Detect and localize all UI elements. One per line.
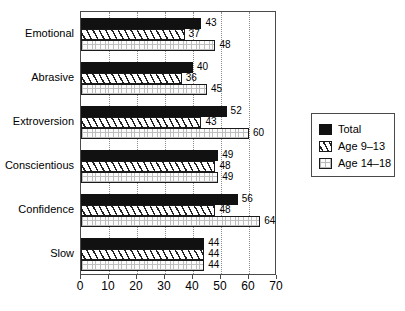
legend-label: Age 14–18 <box>338 157 391 170</box>
bar-value-label: 36 <box>186 72 197 83</box>
bar-value-label: 40 <box>197 61 208 72</box>
bar <box>81 249 204 260</box>
bar-value-label: 49 <box>222 149 233 160</box>
bar <box>81 29 185 40</box>
bar-value-label: 43 <box>205 17 216 28</box>
bar <box>81 172 218 183</box>
bar <box>81 260 204 271</box>
bar <box>81 194 238 205</box>
bar <box>81 150 218 161</box>
bar-value-label: 37 <box>189 28 200 39</box>
bar <box>81 161 215 172</box>
gridline-10 <box>109 12 110 274</box>
x-tick-label-0: 0 <box>77 279 84 294</box>
bar <box>81 73 182 84</box>
x-tick-label-10: 10 <box>101 279 114 294</box>
legend-label: Age 9–13 <box>338 140 385 153</box>
bar-value-label: 48 <box>219 39 230 50</box>
gridline-20 <box>137 12 138 274</box>
bar-value-label: 44 <box>208 259 219 270</box>
legend-item: Age 9–13 <box>319 140 385 153</box>
bar-value-label: 45 <box>211 83 222 94</box>
category-label-slow: Slow <box>0 247 74 259</box>
x-tick-label-70: 70 <box>269 279 282 294</box>
bar <box>81 117 201 128</box>
bar <box>81 62 193 73</box>
gridline-60 <box>249 12 250 274</box>
bar <box>81 216 260 227</box>
plot-inner: 433748403645524360494849564864444444 <box>81 12 275 274</box>
bar-value-label: 52 <box>231 105 242 116</box>
gridline-50 <box>221 12 222 274</box>
x-tick-label-40: 40 <box>185 279 198 294</box>
legend-swatch-icon <box>319 141 332 152</box>
category-label-abrasive: Abrasive <box>0 71 74 83</box>
x-tick-label-50: 50 <box>213 279 226 294</box>
legend-label: Total <box>338 123 361 136</box>
gridline-40 <box>193 12 194 274</box>
bar <box>81 128 249 139</box>
bar-value-label: 48 <box>219 204 230 215</box>
bar <box>81 18 201 29</box>
chart-legend: TotalAge 9–13Age 14–18 <box>311 113 395 177</box>
category-axis-labels: EmotionalAbrasiveExtroversionConscientio… <box>0 11 78 275</box>
category-label-conscientious: Conscientious <box>0 159 74 171</box>
bar-value-label: 60 <box>253 127 264 138</box>
plot-area: 433748403645524360494849564864444444 <box>80 11 276 275</box>
legend-swatch-icon <box>319 158 332 169</box>
bar <box>81 238 204 249</box>
legend-item: Total <box>319 123 361 136</box>
category-label-extroversion: Extroversion <box>0 115 74 127</box>
gridline-30 <box>165 12 166 274</box>
bar-value-label: 56 <box>242 193 253 204</box>
bar-value-label: 48 <box>219 160 230 171</box>
legend-swatch-icon <box>319 124 332 135</box>
x-tick-label-20: 20 <box>129 279 142 294</box>
bar-value-label: 64 <box>264 215 275 226</box>
bar-value-label: 44 <box>208 237 219 248</box>
legend-item: Age 14–18 <box>319 157 391 170</box>
x-axis: 010203040506070 <box>80 275 276 299</box>
bar-value-label: 43 <box>205 116 216 127</box>
category-label-emotional: Emotional <box>0 27 74 39</box>
x-tick-label-60: 60 <box>241 279 254 294</box>
bar-value-label: 49 <box>222 171 233 182</box>
bar <box>81 106 227 117</box>
bar <box>81 84 207 95</box>
bar-value-label: 44 <box>208 248 219 259</box>
bar <box>81 40 215 51</box>
grouped-bar-chart: EmotionalAbrasiveExtroversionConscientio… <box>0 0 405 311</box>
x-tick-label-30: 30 <box>157 279 170 294</box>
category-label-confidence: Confidence <box>0 203 74 215</box>
bar <box>81 205 215 216</box>
